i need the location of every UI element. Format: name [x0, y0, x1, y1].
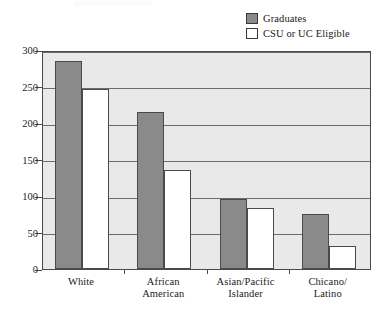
y-tick-label-0: 0 — [8, 265, 38, 275]
chart-legend: Graduates CSU or UC Eligible — [246, 12, 350, 40]
legend-item-eligible: CSU or UC Eligible — [246, 27, 350, 40]
x-tick-mark-1 — [124, 270, 125, 274]
legend-label-graduates: Graduates — [263, 13, 306, 24]
bar-eligible-3 — [329, 246, 356, 269]
eligible-swatch-icon — [246, 28, 258, 39]
bar-eligible-1 — [164, 170, 191, 269]
y-tick-label-150: 150 — [8, 156, 38, 166]
y-tick-label-200: 200 — [8, 119, 38, 129]
graduates-swatch-icon — [246, 13, 258, 24]
scan-artifact — [74, 1, 152, 6]
legend-item-graduates: Graduates — [246, 12, 350, 25]
x-category-label-3: Chicano/ Latino — [278, 276, 378, 300]
legend-label-eligible: CSU or UC Eligible — [263, 28, 350, 39]
bar-eligible-2 — [247, 208, 274, 269]
plot-area — [42, 51, 371, 270]
x-tick-mark-2 — [207, 270, 208, 274]
y-tick-label-300: 300 — [8, 46, 38, 56]
bar-graduates-1 — [137, 112, 164, 269]
bar-graduates-2 — [220, 199, 247, 269]
bar-graduates-0 — [55, 61, 82, 269]
bar-eligible-0 — [82, 89, 109, 269]
bar-graduates-3 — [302, 214, 329, 269]
bars-layer — [43, 52, 370, 269]
bar-chart: Graduates CSU or UC Eligible 30025020015… — [0, 0, 387, 315]
x-tick-mark-3 — [289, 270, 290, 274]
y-tick-label-250: 250 — [8, 83, 38, 93]
y-tick-label-100: 100 — [8, 192, 38, 202]
y-tick-label-50: 50 — [8, 229, 38, 239]
